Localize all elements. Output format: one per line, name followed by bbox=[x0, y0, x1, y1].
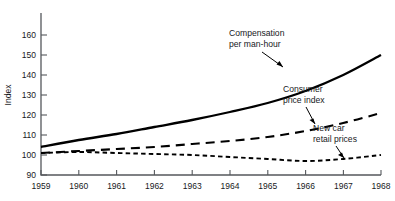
y-tick-label: 100 bbox=[22, 150, 36, 160]
annotation-compensation: Compensation per man-hour bbox=[229, 28, 285, 67]
y-axis-label: Index bbox=[3, 84, 13, 106]
y-tick-label: 160 bbox=[22, 30, 36, 40]
x-tick-label: 1964 bbox=[221, 181, 240, 191]
y-tick-label: 90 bbox=[27, 170, 37, 180]
chart-svg: Index 90 100 110 120 130 140 150 160 bbox=[0, 0, 395, 201]
x-tick-label: 1960 bbox=[69, 181, 88, 191]
x-axis-ticks bbox=[41, 170, 381, 175]
y-tick-label: 110 bbox=[22, 130, 36, 140]
x-tick-label: 1967 bbox=[334, 181, 353, 191]
annotation-line-1: New car bbox=[313, 123, 345, 133]
annotation-line-2: price index bbox=[283, 95, 325, 105]
annotation-line-2: per man-hour bbox=[229, 39, 281, 49]
line-chart: Index 90 100 110 120 130 140 150 160 bbox=[0, 0, 395, 201]
annotation-leader-arrow bbox=[338, 153, 344, 159]
y-tick-label: 140 bbox=[22, 70, 36, 80]
y-tick-label: 120 bbox=[22, 110, 36, 120]
annotation-newcar: New car retail prices bbox=[313, 123, 357, 158]
annotation-leader-arrow bbox=[277, 61, 284, 67]
y-tick-label: 150 bbox=[22, 50, 36, 60]
x-tick-label: 1962 bbox=[145, 181, 164, 191]
x-tick-label: 1959 bbox=[32, 181, 51, 191]
y-tick-labels: 90 100 110 120 130 140 150 160 bbox=[22, 30, 36, 180]
x-tick-label: 1963 bbox=[183, 181, 202, 191]
annotation-line-2: retail prices bbox=[313, 134, 357, 144]
x-tick-labels: 1959 1960 1961 1962 1963 1964 1965 1966 … bbox=[32, 181, 391, 191]
x-tick-label: 1961 bbox=[107, 181, 126, 191]
annotation-line-1: Consumer bbox=[283, 84, 323, 94]
x-tick-label: 1966 bbox=[296, 181, 315, 191]
series-consumer-price-index bbox=[41, 113, 381, 153]
x-tick-label: 1968 bbox=[372, 181, 391, 191]
annotation-cpi: Consumer price index bbox=[283, 84, 325, 124]
series-new-car-retail-prices bbox=[41, 152, 381, 161]
x-tick-label: 1965 bbox=[258, 181, 277, 191]
y-tick-label: 130 bbox=[22, 90, 36, 100]
annotation-line-1: Compensation bbox=[229, 28, 285, 38]
